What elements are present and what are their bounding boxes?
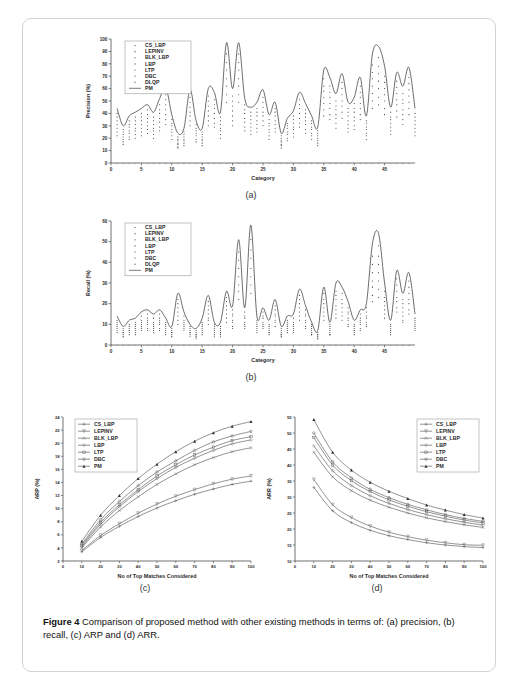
svg-text:4: 4 [57, 546, 60, 551]
svg-text:55: 55 [287, 415, 292, 420]
svg-text:Category: Category [251, 175, 274, 181]
svg-text:5: 5 [140, 167, 143, 172]
svg-text:25: 25 [287, 511, 292, 516]
svg-text:60: 60 [102, 86, 108, 91]
svg-text:40: 40 [352, 349, 358, 354]
legend-label: LEPINV [436, 428, 455, 434]
legend-label: DBC [145, 73, 156, 79]
svg-text:0: 0 [110, 349, 113, 354]
svg-text:10: 10 [287, 559, 292, 564]
svg-text:12: 12 [55, 493, 60, 498]
svg-text:50: 50 [102, 239, 108, 244]
svg-text:14: 14 [55, 480, 60, 485]
legend-label: DBC [94, 456, 105, 462]
legend-label: PM [145, 85, 153, 91]
svg-text:45: 45 [382, 349, 388, 354]
svg-text:90: 90 [102, 49, 108, 54]
svg-text:10: 10 [311, 564, 316, 569]
svg-text:10: 10 [102, 322, 108, 327]
svg-text:No of Top Matches Considered: No of Top Matches Considered [118, 573, 197, 579]
svg-text:2: 2 [57, 559, 60, 564]
series-DLQP [117, 102, 416, 149]
svg-text:22: 22 [55, 428, 60, 433]
series-LEPINV [80, 474, 252, 552]
svg-text:20: 20 [98, 564, 103, 569]
chart-panel-precision: 0102030405060708090100051015202530354045… [81, 33, 421, 211]
panel-tag-d: (d) [261, 583, 493, 593]
svg-text:ARR (%): ARR (%) [266, 478, 272, 500]
svg-text:30: 30 [102, 124, 108, 129]
legend-label: PM [94, 463, 102, 469]
svg-text:30: 30 [117, 564, 122, 569]
svg-text:30: 30 [291, 349, 297, 354]
svg-text:70: 70 [424, 564, 429, 569]
svg-text:30: 30 [349, 564, 354, 569]
figure-caption: Figure 4 Comparison of proposed method w… [43, 615, 477, 642]
svg-text:24: 24 [55, 415, 60, 420]
svg-text:80: 80 [443, 564, 448, 569]
legend-label: LBP [436, 442, 447, 448]
chart-panel-recall: 0102030405060051015202530354045CategoryR… [81, 215, 421, 393]
legend-label: LEPINV [145, 230, 164, 236]
svg-text:20: 20 [102, 136, 108, 141]
svg-text:20: 20 [230, 167, 236, 172]
svg-text:40: 40 [136, 564, 141, 569]
svg-text:100: 100 [248, 564, 256, 569]
svg-text:5: 5 [140, 349, 143, 354]
chart-svg-d: 1015202530354045505501020304050607080901… [261, 409, 493, 595]
figure-caption-text: Comparison of proposed method with other… [43, 616, 455, 640]
chart-legend-c: CS_LBPLEPINVBLK_LBPLBPLTPDBCPM [75, 419, 137, 472]
svg-text:50: 50 [155, 564, 160, 569]
svg-text:25: 25 [260, 349, 266, 354]
legend-label: LTP [436, 449, 446, 455]
legend-label: BLK_LBP [94, 435, 118, 441]
chart-legend-b: CS_LBPLEPINVBLK_LBPLBPLTPDBCDLQPPM [125, 223, 191, 276]
chart-svg-b: 0102030405060051015202530354045CategoryR… [81, 215, 421, 375]
legend-label: CS_LBP [436, 421, 457, 427]
svg-text:50: 50 [287, 431, 292, 436]
panel-tag-c: (c) [29, 583, 261, 593]
chart-svg-a: 0102030405060708090100051015202530354045… [81, 33, 421, 193]
panel-tag-a: (a) [81, 190, 421, 200]
svg-text:10: 10 [169, 349, 175, 354]
chart-panel-arr: 1015202530354045505501020304050607080901… [261, 409, 493, 599]
svg-text:40: 40 [287, 463, 292, 468]
svg-text:Category: Category [251, 357, 274, 363]
legend-label: DLQP [145, 261, 160, 267]
legend-label: LTP [94, 449, 104, 455]
figure-card: 0102030405060708090100051015202530354045… [22, 18, 496, 672]
svg-text:30: 30 [291, 167, 297, 172]
svg-text:100: 100 [100, 37, 108, 42]
panel-tag-b: (b) [81, 372, 421, 382]
svg-text:10: 10 [79, 564, 84, 569]
svg-text:0: 0 [294, 564, 297, 569]
svg-text:20: 20 [230, 349, 236, 354]
legend-label: CS_LBP [145, 42, 166, 48]
svg-text:50: 50 [102, 99, 108, 104]
svg-text:ARP (%): ARP (%) [34, 478, 40, 499]
svg-text:0: 0 [110, 167, 113, 172]
svg-text:20: 20 [330, 564, 335, 569]
svg-text:20: 20 [287, 527, 292, 532]
legend-label: DBC [436, 456, 447, 462]
svg-text:20: 20 [102, 301, 108, 306]
svg-text:60: 60 [405, 564, 410, 569]
svg-text:80: 80 [102, 62, 108, 67]
svg-text:45: 45 [382, 167, 388, 172]
series-LBP [117, 268, 416, 337]
svg-text:16: 16 [55, 467, 60, 472]
svg-text:10: 10 [169, 167, 175, 172]
chart-svg-c: 2468101214161820222401020304050607080901… [29, 409, 261, 595]
legend-label: LEPINV [94, 428, 113, 434]
legend-label: LBP [145, 243, 156, 249]
svg-text:No of Top Matches Considered: No of Top Matches Considered [350, 573, 429, 579]
legend-label: LTP [145, 249, 155, 255]
chart-legend-a: CS_LBPLEPINVBLK_LBPLBPLTPDBCDLQPPM [125, 41, 191, 94]
svg-text:35: 35 [287, 479, 292, 484]
svg-text:15: 15 [200, 167, 206, 172]
svg-text:80: 80 [211, 564, 216, 569]
legend-label: BLK_LBP [436, 435, 460, 441]
svg-text:10: 10 [55, 506, 60, 511]
svg-text:15: 15 [287, 543, 292, 548]
svg-text:100: 100 [480, 564, 488, 569]
